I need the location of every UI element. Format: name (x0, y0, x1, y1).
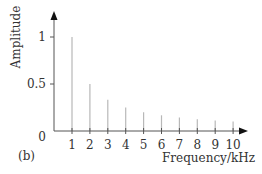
panel-label: (b) (18, 149, 35, 163)
x-tick-label: 6 (158, 138, 166, 152)
y-tick-label: 0.5 (27, 77, 46, 91)
x-tick-label: 10 (225, 138, 240, 152)
x-tick-label: 4 (122, 138, 130, 152)
x-axis-arrow-icon (239, 128, 248, 135)
x-tick-label: 3 (104, 138, 112, 152)
x-tick-label: 2 (86, 138, 94, 152)
y-ticks: 00.51 (27, 30, 54, 144)
y-axis-arrow-icon (51, 11, 58, 20)
y-tick-label: 0 (38, 130, 46, 144)
x-tick-label: 5 (140, 138, 148, 152)
stem-series (72, 37, 233, 131)
y-axis-title: Amplitude (9, 6, 23, 70)
x-axis-title: Frequency/kHz (162, 151, 255, 165)
y-tick-label: 1 (38, 30, 46, 44)
x-tick-label: 7 (176, 138, 184, 152)
amplitude-spectrum-chart: 00.51 12345678910 Amplitude Frequency/kH… (0, 0, 262, 174)
x-tick-label: 1 (68, 138, 76, 152)
x-tick-label: 8 (193, 138, 201, 152)
x-ticks: 12345678910 (68, 128, 241, 152)
x-tick-label: 9 (211, 138, 219, 152)
